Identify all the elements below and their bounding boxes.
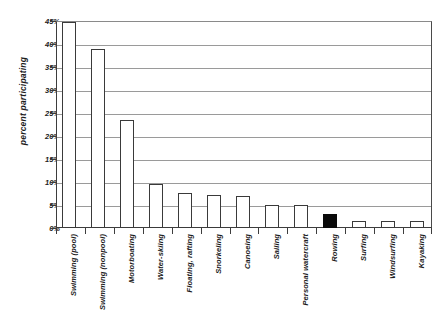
x-axis-tick-label: Canoeing [243, 234, 252, 269]
x-axis-tick-label: Swimming (pool) [69, 234, 78, 296]
bar [294, 205, 308, 228]
x-axis-label-slot: Kayaking [411, 234, 423, 314]
x-axis-tick-label: Rowing [330, 234, 339, 262]
bar [62, 22, 76, 228]
bar [410, 221, 424, 228]
bar [207, 195, 221, 228]
x-axis-labels: Swimming (pool)Swimming (nonpool)Motorbo… [56, 234, 432, 314]
x-axis-tick-label: Water-skiing [156, 234, 165, 280]
bar [178, 193, 192, 228]
x-axis-tick-label: Windsurfing [388, 234, 397, 279]
x-axis-label-slot: Sailing [266, 234, 278, 314]
x-axis-label-slot: Snorkeling [208, 234, 220, 314]
bar [120, 120, 134, 228]
bar [236, 196, 250, 228]
bar-chart: percent participating 0%5%10%15%20%25%30… [0, 0, 446, 314]
x-axis-label-slot: Floating, rafting [179, 234, 191, 314]
bar [381, 221, 395, 228]
x-axis-label-slot: Water-skiing [150, 234, 162, 314]
x-axis-tick-label: Snorkeling [214, 234, 223, 274]
bar [265, 205, 279, 228]
x-axis-tick-label: Swimming (nonpool) [98, 234, 107, 310]
x-axis-tick-label: Kayaking [417, 234, 426, 268]
x-axis-label-slot: Surfing [353, 234, 365, 314]
x-axis-tick-label: Personal watercraft [301, 234, 310, 306]
bars-group [56, 21, 432, 228]
bar [352, 221, 366, 228]
x-axis-label-slot: Swimming (nonpool) [92, 234, 104, 314]
x-axis-label-slot: Canoeing [237, 234, 249, 314]
x-axis-tick-label: Surfing [359, 234, 368, 261]
x-axis-tick-label: Floating, rafting [185, 234, 194, 292]
x-axis-label-slot: Windsurfing [382, 234, 394, 314]
x-axis-label-slot: Rowing [324, 234, 336, 314]
x-axis-label-slot: Swimming (pool) [63, 234, 75, 314]
x-axis-tick-label: Motorboating [127, 234, 136, 283]
y-axis-title: percent participating [18, 36, 28, 166]
x-axis-label-slot: Personal watercraft [295, 234, 307, 314]
bar [323, 214, 337, 228]
x-axis-tick-label: Sailing [272, 234, 281, 259]
bar [91, 49, 105, 228]
x-axis-label-slot: Motorboating [121, 234, 133, 314]
bar [149, 184, 163, 228]
